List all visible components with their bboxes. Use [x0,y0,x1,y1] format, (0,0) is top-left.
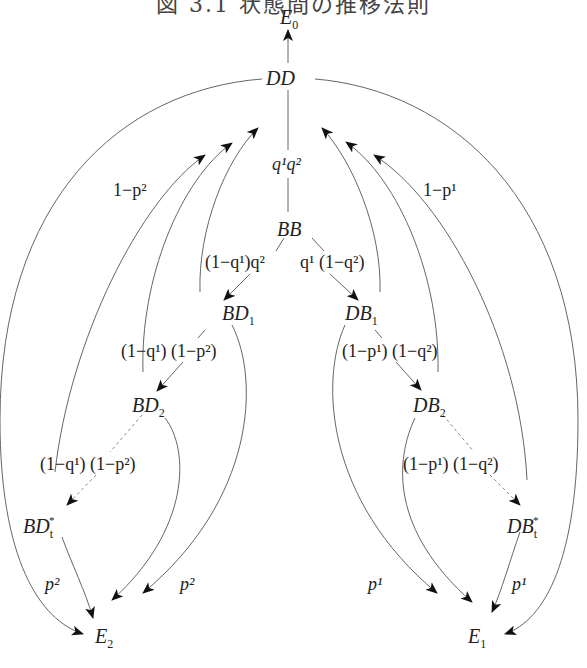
edge-bb-db1 [330,274,358,300]
edge-dbt-e1 [492,532,520,612]
node-bb: BB [277,218,301,240]
nodes: E0 DD BB BD1 DB1 BD2 DB2 BDt* DBt* E2 E1 [23,6,539,651]
edge-bd1-bd2-stub [198,330,205,338]
node-bd2: BD2 [132,394,165,420]
edge-bd2-bdt [67,475,96,505]
node-e1: E1 [467,625,486,651]
edge-bd1-e2 [143,325,246,593]
node-bd1: BD1 [222,302,255,328]
edge-bd2-bdt-upper [110,415,142,452]
node-dd: DD [265,67,295,89]
label-bd1-e2: p² [178,574,195,594]
label-db-e1: p¹ [366,574,382,594]
label-bd1-bd2: (1−q¹) (1−p²) [121,341,217,362]
label-right-return: 1−p¹ [423,180,457,200]
label-dd-bb: q¹q² [272,154,301,174]
label-db2-dbt: (1−p¹) (1−q²) [403,454,499,475]
label-bdt-e2: p² [43,574,60,594]
label-bb-db1: q¹ (1−q²) [300,252,364,273]
node-bdt: BDt* [23,514,55,541]
edge-db1-db2-stub [375,330,382,338]
edge-bd1-bd2 [157,362,183,391]
node-e2: E2 [94,625,113,651]
label-bd2-bdt: (1−q¹) (1−p²) [40,454,136,475]
node-e0: E0 [279,6,298,32]
edge-bdt-e2 [62,537,93,618]
edges [0,30,578,634]
label-bb-bd1: (1−q¹)q² [205,252,265,273]
label-dbt-e1: p¹ [510,574,526,594]
state-transition-diagram: E0 DD BB BD1 DB1 BD2 DB2 BDt* DBt* E2 E1 [0,0,587,668]
node-db2: DB2 [412,394,446,420]
edge-db2-dbt-upper [443,415,474,452]
node-db1: DB1 [344,302,378,328]
edge-db2-e1 [403,418,472,602]
label-left-return: 1−p² [113,180,147,200]
node-dbt: DBt* [506,514,539,541]
edge-db1-db2 [396,362,421,390]
edge-bb-db1-stub [312,238,324,251]
edge-bd2-e2 [112,418,180,600]
edge-bb-bd1 [224,274,250,300]
label-db1-db2: (1−p¹) (1−q²) [342,341,438,362]
edge-db2-dbt [490,475,520,505]
